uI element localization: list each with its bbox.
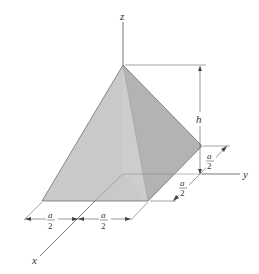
h-arrow-top	[198, 66, 202, 71]
dim-frac-right-lower: a 2	[179, 177, 189, 198]
dim-arrow-4	[125, 217, 131, 221]
dim-frac-bottom-left: a 2	[46, 210, 58, 233]
pyramid-diagram: y x z h a 2 a 2 a 2 a	[0, 0, 259, 274]
dim-frac-bottom-right: a 2	[99, 210, 111, 233]
svg-text:2: 2	[180, 188, 185, 198]
svg-text:2: 2	[48, 221, 53, 231]
dim-arrow-5	[72, 217, 78, 221]
svg-text:2: 2	[101, 221, 106, 231]
svg-text:a: a	[48, 210, 53, 220]
ext-front-left	[24, 202, 42, 220]
height-label: h	[196, 113, 202, 125]
svg-text:2: 2	[207, 161, 212, 171]
dim-frac-right-upper: a 2	[206, 150, 216, 171]
svg-text:a: a	[207, 151, 212, 161]
svg-text:a: a	[180, 178, 185, 188]
dim-arrow-3	[25, 217, 31, 221]
ext-front-right-low	[131, 202, 148, 220]
svg-text:a: a	[101, 210, 106, 220]
z-axis-label: z	[119, 10, 125, 22]
x-axis-label: x	[31, 254, 37, 266]
h-arrow-bottom	[198, 169, 202, 174]
y-axis-label: y	[242, 168, 248, 180]
